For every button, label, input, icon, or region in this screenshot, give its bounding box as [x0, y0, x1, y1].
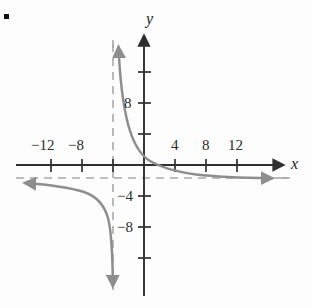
x-tick-label-4: 4: [171, 138, 179, 153]
y-tick-label-neg4: −4: [117, 189, 133, 204]
x-tick-label-8: 8: [202, 138, 210, 153]
coordinate-plane-svg: [0, 0, 312, 308]
curve-right-branch: [119, 47, 273, 178]
x-tick-label-neg12: −12: [31, 138, 54, 153]
x-axis-label: x: [291, 156, 298, 172]
x-tick-label-neg8: −8: [68, 138, 84, 153]
y-axis-label: y: [146, 11, 153, 27]
graph-figure: −12 −8 4 8 12 8 −4 −8 y x: [0, 0, 312, 308]
x-tick-label-12: 12: [228, 138, 243, 153]
y-tick-label-neg8: −8: [117, 220, 133, 235]
problem-bullet-icon: [4, 14, 9, 19]
y-tick-label-8: 8: [124, 96, 132, 111]
curve-left-branch: [25, 183, 113, 286]
